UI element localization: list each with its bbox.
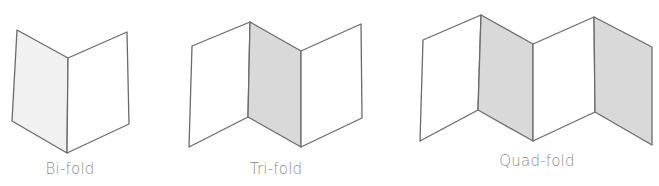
bi-fold-panel-2	[67, 32, 129, 153]
quad-fold-panel-3	[533, 17, 595, 141]
bi-fold-label: Bi-fold	[46, 160, 95, 178]
bi-fold-panel-1	[12, 30, 68, 153]
quad-fold-illustration	[420, 15, 652, 145]
tri-fold-panel-3	[301, 24, 362, 147]
quad-fold-panel-2	[478, 15, 533, 141]
fold-types-diagram: Bi-fold Tri-fold Quad-fold	[0, 0, 659, 186]
tri-fold-label: Tri-fold	[250, 160, 302, 178]
quad-fold-label: Quad-fold	[499, 152, 574, 170]
quad-fold-panel-1	[420, 15, 481, 141]
tri-fold-panel-2	[248, 22, 301, 147]
tri-fold-illustration	[189, 22, 362, 147]
bi-fold-illustration	[12, 30, 129, 153]
tri-fold-panel-1	[189, 22, 250, 147]
quad-fold-panel-4	[594, 17, 652, 145]
